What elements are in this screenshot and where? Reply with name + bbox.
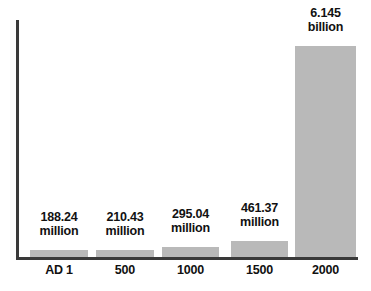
bar-value-unit: million xyxy=(25,224,93,239)
bar-value-number: 461.37 xyxy=(226,201,293,216)
bar-500 xyxy=(96,250,154,257)
bar-value-unit: million xyxy=(226,215,293,230)
bar-value-unit: million xyxy=(91,224,159,239)
bar-2000 xyxy=(295,46,356,257)
x-tick-label-2000: 2000 xyxy=(295,263,356,277)
bar-value-number: 6.145 xyxy=(290,6,361,21)
x-axis-line xyxy=(16,257,358,260)
bar-value-number: 210.43 xyxy=(91,210,159,225)
bar-value-number: 188.24 xyxy=(25,210,93,225)
bar-value-number: 295.04 xyxy=(157,207,224,222)
y-axis-line xyxy=(16,20,19,260)
bar-value-label-1000: 295.04 million xyxy=(157,207,224,237)
population-growth-bar-chart: 188.24 million 210.43 million 295.04 mil… xyxy=(0,0,371,291)
x-tick-label-500: 500 xyxy=(96,263,154,277)
bar-value-label-500: 210.43 million xyxy=(91,210,159,240)
bar-value-label-1500: 461.37 million xyxy=(226,201,293,231)
bar-value-unit: billion xyxy=(290,20,361,35)
plot-area: 188.24 million 210.43 million 295.04 mil… xyxy=(0,0,371,291)
bar-1500 xyxy=(231,241,288,257)
x-tick-label-1000: 1000 xyxy=(162,263,219,277)
bar-value-label-ad-1: 188.24 million xyxy=(25,210,93,240)
x-tick-label-ad-1: AD 1 xyxy=(30,263,88,277)
bar-value-label-2000: 6.145 billion xyxy=(290,6,361,36)
bar-ad-1 xyxy=(30,250,88,257)
bar-1000 xyxy=(162,247,219,257)
x-tick-label-1500: 1500 xyxy=(231,263,288,277)
bar-value-unit: million xyxy=(157,221,224,236)
